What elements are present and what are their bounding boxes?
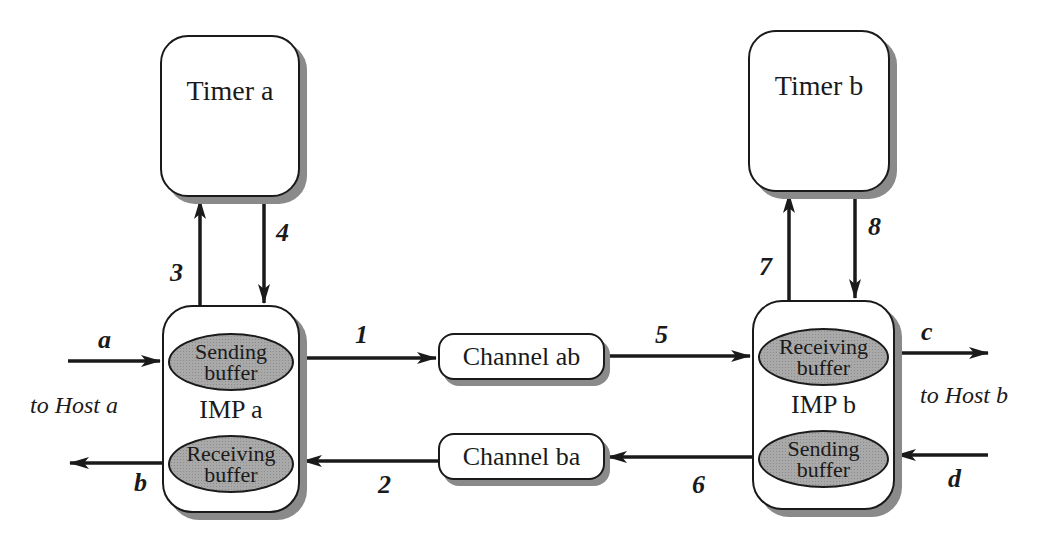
edge-label-c: c — [921, 317, 933, 347]
edge-label-5: 5 — [655, 320, 668, 350]
imp-a-label: IMP a — [164, 395, 298, 425]
host-a-label: to Host a — [30, 392, 118, 419]
imp-a-receiving-buffer: Receiving buffer — [168, 435, 294, 493]
imp-a-box: Sending buffer IMP a Receiving buffer — [162, 305, 300, 513]
edge-label-b: b — [134, 468, 147, 498]
buffer-label-line2: buffer — [204, 464, 257, 485]
edge-label-2: 2 — [378, 470, 391, 500]
buffer-label-line2: buffer — [797, 357, 850, 378]
edge-label-4: 4 — [276, 218, 289, 248]
buffer-label-line1: Receiving — [779, 336, 868, 357]
channel-ba-box: Channel ba — [438, 433, 605, 480]
buffer-label-line1: Receiving — [186, 443, 275, 464]
timer-b-label: Timer b — [750, 70, 888, 102]
edge-label-8: 8 — [868, 212, 881, 242]
timer-b-box: Timer b — [748, 30, 890, 192]
edge-label-3: 3 — [170, 258, 183, 288]
imp-b-box: Receiving buffer IMP b Sending buffer — [752, 300, 895, 510]
edge-label-a: a — [98, 325, 111, 355]
channel-ab-box: Channel ab — [438, 333, 605, 380]
buffer-label-line2: buffer — [797, 459, 850, 480]
buffer-label-line1: Sending — [195, 341, 267, 362]
buffer-label-line1: Sending — [787, 438, 859, 459]
buffer-label-line2: buffer — [204, 362, 257, 383]
host-b-label: to Host b — [920, 382, 1008, 409]
edge-label-1: 1 — [355, 320, 368, 350]
edge-label-6: 6 — [692, 470, 705, 500]
timer-a-label: Timer a — [162, 75, 298, 107]
imp-a-sending-buffer: Sending buffer — [168, 333, 294, 391]
imp-b-receiving-buffer: Receiving buffer — [758, 328, 889, 386]
imp-b-sending-buffer: Sending buffer — [758, 430, 889, 488]
edge-label-d: d — [948, 464, 961, 494]
imp-b-label: IMP b — [754, 390, 893, 420]
edge-label-7: 7 — [759, 252, 772, 282]
timer-a-box: Timer a — [160, 35, 300, 197]
